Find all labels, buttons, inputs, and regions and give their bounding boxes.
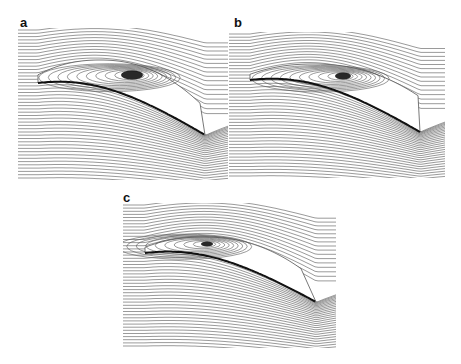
- vortex-core: [121, 71, 143, 80]
- vortex-core: [335, 73, 351, 80]
- streamline-plot-b: [229, 32, 445, 178]
- streamline: [123, 339, 336, 348]
- streamline-plot-c: [123, 203, 338, 348]
- vortex-core: [201, 242, 213, 247]
- streamline: [18, 41, 228, 64]
- panel-label-b: b: [234, 16, 242, 29]
- streamline: [229, 144, 445, 162]
- streamline: [123, 209, 336, 230]
- streamline: [18, 174, 228, 180]
- streamline: [18, 161, 228, 175]
- streamline: [229, 43, 445, 68]
- streamline: [229, 41, 445, 65]
- streamline: [123, 317, 336, 334]
- streamline: [229, 160, 445, 174]
- streamline: [229, 32, 445, 49]
- streamline: [229, 169, 445, 178]
- streamline: [18, 171, 228, 180]
- streamline-plot-a: [18, 28, 228, 180]
- streamline: [18, 145, 228, 164]
- separation-bubble: [38, 60, 205, 135]
